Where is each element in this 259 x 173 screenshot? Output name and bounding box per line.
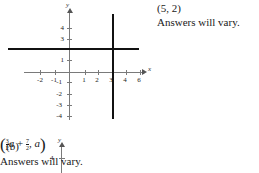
y-tick-label: -4 xyxy=(50,112,62,120)
y-tick xyxy=(67,82,72,83)
y-tick xyxy=(67,105,72,106)
answer-note-top: Answers will vary. xyxy=(157,16,240,29)
y-tick-label: 1 xyxy=(52,56,64,64)
plot-line-horizontal-y2 xyxy=(8,48,139,50)
x-tick-label: 1 xyxy=(78,76,90,84)
y-tick-label: 3 xyxy=(52,35,64,43)
answer-note-bottom: Answers will vary. xyxy=(0,155,83,167)
y-tick-label: -2 xyxy=(50,90,62,98)
paren-close: ) xyxy=(40,135,46,154)
y-tick xyxy=(67,94,72,95)
x-tick-label: 2 xyxy=(91,76,103,84)
x-tick-label: -2 xyxy=(34,76,46,84)
y-axis-label: y xyxy=(66,1,69,9)
y-axis-label-b: y xyxy=(58,136,61,144)
answer-expression-b: (32a + 72, a) xyxy=(0,136,46,153)
plot-line-vertical-x5 xyxy=(112,14,114,119)
coordinate-graph-main: x y -2 -1 1 2 3 4 6 4 3 1 -1 -2 -3 -4 xyxy=(14,2,154,122)
x-tick xyxy=(40,70,41,75)
y-tick xyxy=(67,60,72,61)
x-tick xyxy=(126,70,127,75)
answer-key-page: x y -2 -1 1 2 3 4 6 4 3 1 -1 -2 -3 -4 xyxy=(0,0,259,173)
x-tick-label: 4 xyxy=(119,76,131,84)
x-tick xyxy=(85,70,86,75)
x-axis-arrow-icon xyxy=(142,69,147,75)
x-axis-label: x xyxy=(148,65,151,73)
y-tick-label: -3 xyxy=(50,101,62,109)
plus-operator: + xyxy=(17,137,23,149)
x-tick xyxy=(98,70,99,75)
x-tick-label: 6 xyxy=(133,76,145,84)
variable-a-first: a xyxy=(9,137,15,149)
y-tick-label: 4 xyxy=(52,24,64,32)
y-tick xyxy=(67,28,72,29)
x-tick xyxy=(140,70,141,75)
y-tick xyxy=(67,39,72,40)
y-tick-label: -1 xyxy=(50,78,62,86)
x-tick xyxy=(55,70,56,75)
y-tick xyxy=(67,116,72,117)
answer-point: (5, 2) xyxy=(157,2,181,15)
